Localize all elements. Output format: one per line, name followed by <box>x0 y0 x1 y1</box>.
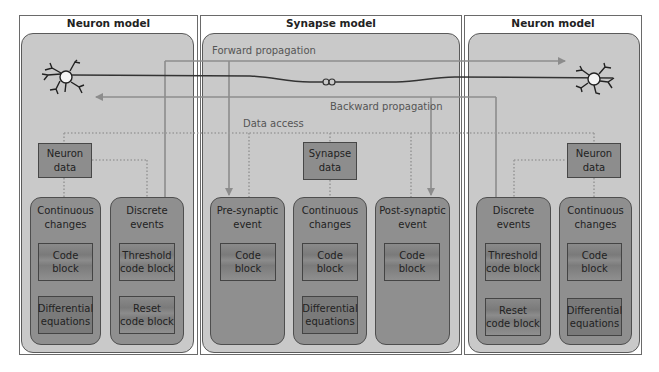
diffeq-label: Differential equations <box>567 304 623 330</box>
code-block-label: Code block <box>221 249 275 275</box>
left-neuron-data-label: Neuron data <box>47 147 83 175</box>
diagram-canvas: Neuron model Synapse model Neuron model <box>0 0 659 372</box>
group-title: Continuous changes <box>294 204 366 232</box>
synapse-data: Synapse data <box>303 142 357 180</box>
group-title: Discrete events <box>477 204 550 232</box>
left-code-block: Code block <box>38 243 93 281</box>
synapse-differential-equations: Differential equations <box>302 296 358 334</box>
threshold-label: Threshold code block <box>486 249 540 275</box>
code-block-label: Code block <box>303 249 357 275</box>
group-title: Continuous changes <box>31 204 100 232</box>
synapse-code-block: Code block <box>302 243 358 281</box>
post-synaptic-code-block: Code block <box>384 243 440 281</box>
reset-label: Reset code block <box>486 304 540 330</box>
left-neuron-icon <box>42 60 84 94</box>
axon-line <box>71 75 613 82</box>
threshold-label: Threshold code block <box>120 249 174 275</box>
group-title: Discrete events <box>111 204 183 232</box>
right-threshold-code-block: Threshold code block <box>485 243 541 281</box>
code-block-label: Code block <box>568 249 621 275</box>
data-access-label: Data access <box>243 117 304 131</box>
right-reset-code-block: Reset code block <box>485 298 541 336</box>
left-threshold-code-block: Threshold code block <box>119 243 175 281</box>
right-code-block: Code block <box>567 243 622 281</box>
group-title: Post-synaptic event <box>376 204 449 232</box>
left-neuron-data: Neuron data <box>38 143 92 178</box>
reset-label: Reset code block <box>120 302 174 328</box>
right-neuron-data-label: Neuron data <box>576 147 612 175</box>
pre-synaptic-code-block: Code block <box>220 243 276 281</box>
forward-propagation-label: Forward propagation <box>212 44 316 58</box>
backward-propagation-label: Backward propagation <box>330 100 443 114</box>
synapse-symbol-icon <box>323 79 335 85</box>
right-differential-equations: Differential equations <box>567 298 622 336</box>
diffeq-label: Differential equations <box>38 302 94 328</box>
code-block-label: Code block <box>385 249 439 275</box>
synapse-data-label: Synapse data <box>309 147 351 175</box>
code-block-label: Code block <box>39 249 92 275</box>
group-title: Continuous changes <box>560 204 631 232</box>
diffeq-label: Differential equations <box>302 302 358 328</box>
group-title: Pre-synaptic event <box>211 204 284 232</box>
left-reset-code-block: Reset code block <box>119 296 175 334</box>
right-neuron-data: Neuron data <box>567 143 621 178</box>
left-differential-equations: Differential equations <box>38 296 93 334</box>
